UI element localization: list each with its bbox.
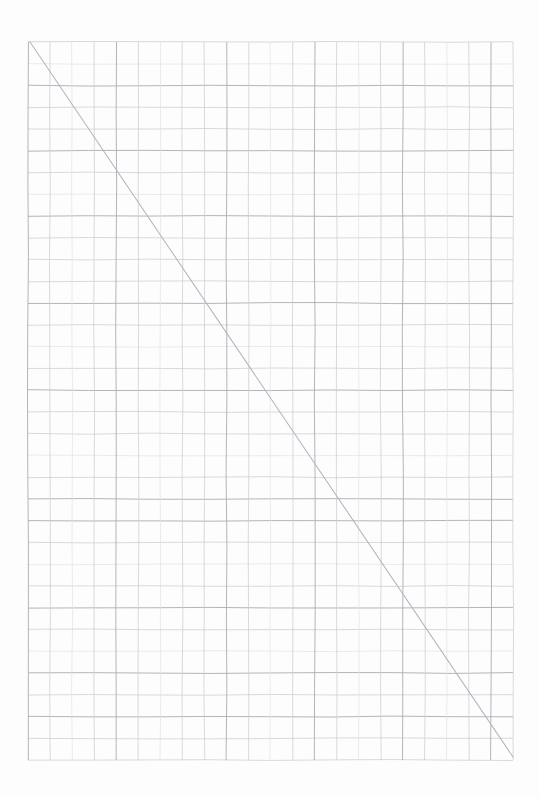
- grid-line-vertical: [182, 42, 183, 760]
- grid-line-vertical: [72, 42, 73, 760]
- grid-line-vertical: [314, 42, 315, 760]
- grid-line-vertical: [50, 42, 51, 760]
- grid-line-vertical: [116, 42, 117, 760]
- grid-line-vertical: [28, 42, 29, 760]
- grid-line-horizontal: [28, 42, 513, 43]
- grid-line-vertical: [336, 42, 337, 760]
- grid-line-vertical: [226, 42, 227, 760]
- grid-line-vertical: [402, 42, 403, 760]
- grid-figure: [0, 0, 539, 798]
- grid-svg: [0, 0, 539, 798]
- grid-line-vertical: [138, 42, 139, 760]
- grid-line-horizontal: [28, 651, 513, 652]
- grid-line-vertical: [425, 42, 426, 760]
- grid-line-vertical: [468, 42, 469, 760]
- grid-line-horizontal: [28, 760, 513, 761]
- grid-line-vertical: [270, 42, 271, 760]
- grid-line-horizontal: [28, 433, 513, 434]
- grid-line-vertical: [380, 42, 381, 760]
- diagonal-line-group: [30, 42, 513, 757]
- grid-line-horizontal: [28, 455, 513, 456]
- grid-line-vertical: [292, 42, 293, 760]
- grid-line-horizontal: [28, 411, 513, 412]
- graph-paper-page: [0, 0, 539, 798]
- diagonal-line: [30, 42, 513, 757]
- grid-line-vertical: [94, 42, 95, 760]
- grid-line-vertical: [160, 42, 161, 760]
- grid-line-vertical: [491, 42, 492, 760]
- grid-line-vertical: [513, 42, 514, 760]
- grid-line-horizontal: [28, 738, 513, 739]
- grid-line-horizontal: [28, 716, 513, 717]
- grid-line-vertical: [204, 42, 205, 760]
- grid-line-horizontal: [28, 629, 513, 630]
- grid-line-vertical: [446, 42, 447, 760]
- grid-line-vertical: [358, 42, 359, 760]
- grid-vertical-lines: [28, 42, 514, 760]
- grid-line-vertical: [248, 42, 249, 760]
